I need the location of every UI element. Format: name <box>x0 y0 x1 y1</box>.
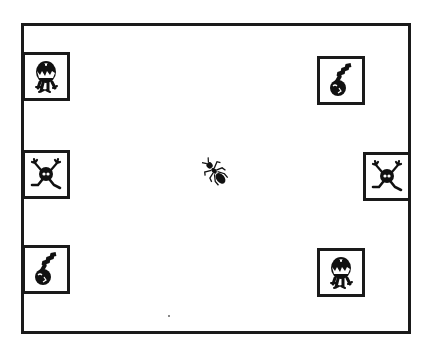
tile-left-middle[interactable] <box>22 150 70 199</box>
tile-right-middle[interactable] <box>363 152 411 201</box>
tile-left-top[interactable] <box>22 52 70 101</box>
tile-right-top[interactable] <box>317 56 365 105</box>
scan-artifact <box>168 315 170 317</box>
chomper-monster-icon <box>323 254 359 291</box>
spider-monster-icon <box>28 156 64 193</box>
chomper-monster-icon <box>28 58 64 95</box>
tile-left-bottom[interactable] <box>22 245 70 294</box>
bomb-creature-icon <box>323 62 359 99</box>
bomb-creature-icon <box>28 251 64 288</box>
tile-right-bottom[interactable] <box>317 248 365 297</box>
ant-icon[interactable] <box>198 155 234 191</box>
spider-monster-icon <box>369 158 405 195</box>
